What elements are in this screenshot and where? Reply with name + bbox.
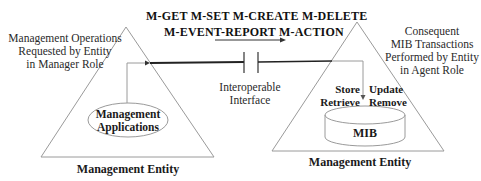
operations-line-2: M-EVENT-REPORT M-ACTION	[164, 25, 344, 40]
right-caption-line: Performed by Entity	[384, 51, 480, 64]
store-retrieve-label: Store Retrieve	[318, 83, 360, 109]
left-entity-label: Management Entity	[72, 163, 184, 176]
operations-line-left	[150, 62, 244, 63]
action-store: Store	[318, 83, 360, 96]
action-retrieve: Retrieve	[318, 96, 360, 109]
left-entity-caption: Management Operations Requested by Entit…	[6, 32, 124, 71]
right-entity-caption: Consequent MIB Transactions Performed by…	[384, 25, 480, 77]
applications-line: Applications	[88, 121, 168, 134]
left-caption-line: in Manager Role	[6, 58, 124, 71]
operations-line-1: M-GET M-SET M-CREATE M-DELETE	[146, 9, 367, 24]
action-remove: Remove	[369, 96, 413, 109]
left-caption-line: Requested by Entity	[6, 45, 124, 58]
applications-line: Management	[88, 108, 168, 121]
interoperable-interface-label: Interoperable Interface	[218, 81, 282, 107]
right-entity-label: Management Entity	[304, 156, 416, 169]
interface-line: Interface	[218, 94, 282, 107]
update-remove-label: Update Remove	[369, 83, 413, 109]
management-applications-label: Management Applications	[88, 108, 168, 134]
mib-label: MIB	[345, 127, 385, 140]
interface-line: Interoperable	[218, 81, 282, 94]
right-caption-line: MIB Transactions	[384, 38, 480, 51]
manager-connector-line	[127, 63, 146, 103]
down-arrowhead-icon	[361, 95, 366, 100]
action-update: Update	[369, 83, 413, 96]
right-caption-line: in Agent Role	[384, 64, 480, 77]
right-caption-line: Consequent	[384, 25, 480, 38]
left-caption-line: Management Operations	[6, 32, 124, 45]
operations-line-right	[258, 61, 332, 62]
